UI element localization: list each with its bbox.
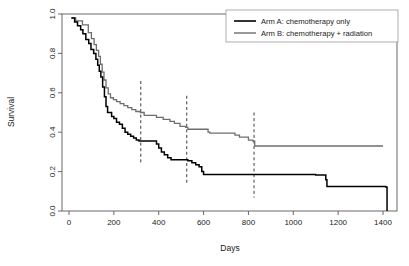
x-axis-title: Days	[220, 243, 239, 253]
x-tick-label: 1400	[374, 218, 392, 227]
y-tick-label: 0.8	[48, 47, 57, 59]
y-tick-label: 0.0	[48, 205, 57, 217]
x-axis-ticks	[69, 211, 383, 215]
survival-chart: 0200400600800100012001400 0.00.20.40.60.…	[0, 0, 409, 266]
y-axis-tick-labels: 0.00.20.40.60.81.0	[48, 8, 57, 217]
x-tick-label: 800	[242, 218, 256, 227]
y-tick-label: 0.6	[48, 87, 57, 99]
y-axis-ticks	[58, 14, 62, 211]
x-tick-label: 1000	[284, 218, 302, 227]
survival-curve-arm-a	[71, 18, 387, 211]
legend-label-arm-a: Arm A: chemotherapy only	[261, 17, 350, 26]
x-tick-label: 200	[107, 218, 121, 227]
x-tick-label: 400	[152, 218, 166, 227]
x-tick-label: 600	[197, 218, 211, 227]
x-axis-tick-labels: 0200400600800100012001400	[67, 218, 393, 227]
legend: Arm A: chemotherapy only Arm B: chemothe…	[226, 10, 398, 42]
x-tick-label: 1200	[329, 218, 347, 227]
y-tick-label: 0.4	[48, 126, 57, 138]
y-tick-label: 1.0	[48, 8, 57, 20]
reference-lines	[141, 81, 254, 198]
x-tick-label: 0	[67, 218, 72, 227]
y-tick-label: 0.2	[48, 165, 57, 177]
y-axis-title: Survival	[6, 97, 16, 127]
legend-label-arm-b: Arm B: chemotherapy + radiation	[261, 29, 372, 38]
plot-canvas: 0200400600800100012001400 0.00.20.40.60.…	[0, 0, 409, 266]
